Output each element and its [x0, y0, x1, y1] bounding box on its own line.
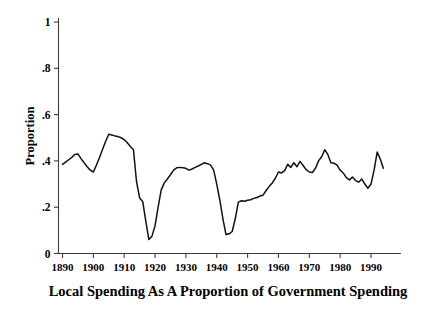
y-axis-title: Proportion [23, 107, 37, 166]
x-tick-label: 1960 [267, 261, 290, 273]
x-tick-label: 1920 [144, 261, 167, 273]
line-chart-plot: 0.2.4.6.81 18901900191019201930194019501… [0, 0, 428, 316]
chart-caption: Local Spending As A Proportion of Govern… [49, 283, 408, 299]
x-tick-label: 1900 [82, 261, 105, 273]
y-tick-label: .2 [42, 201, 51, 213]
y-tick-label: .6 [42, 109, 51, 121]
x-axis-tick-labels: 1890190019101920193019401950196019701980… [52, 261, 383, 273]
y-tick-label: 0 [45, 248, 51, 260]
y-tick-label: 1 [45, 16, 51, 28]
x-tick-label: 1910 [113, 261, 136, 273]
x-tick-label: 1890 [52, 261, 75, 273]
x-tick-label: 1990 [360, 261, 383, 273]
x-tick-label: 1980 [329, 261, 352, 273]
x-tick-label: 1970 [298, 261, 321, 273]
x-tick-label: 1950 [237, 261, 260, 273]
x-tick-label: 1930 [175, 261, 198, 273]
chart-figure: 0.2.4.6.81 18901900191019201930194019501… [0, 0, 428, 316]
y-tick-label: .8 [42, 62, 51, 74]
y-tick-label: .4 [42, 155, 51, 167]
x-tick-label: 1940 [206, 261, 229, 273]
